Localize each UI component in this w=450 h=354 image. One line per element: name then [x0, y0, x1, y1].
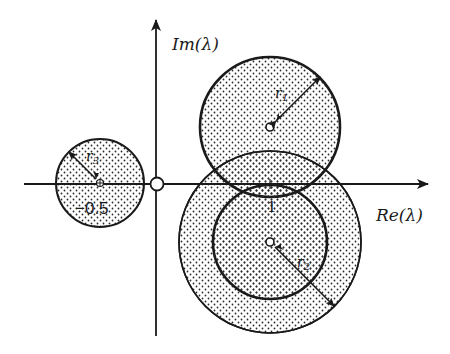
x-axis-label: Re(λ) — [375, 205, 423, 225]
y-axis-label: Im(λ) — [171, 34, 219, 54]
complex-plane-diagram: Im(λ) Re(λ) r1 r2 r3 1 −0.5 — [0, 0, 450, 354]
disk-3-center-icon — [97, 180, 104, 187]
tick-label-minus-half: −0.5 — [75, 199, 109, 218]
disk-2-center-icon — [266, 238, 274, 246]
origin-marker-icon — [151, 178, 164, 191]
disk-1-center-icon — [266, 123, 274, 131]
tick-label-one: 1 — [267, 198, 277, 216]
